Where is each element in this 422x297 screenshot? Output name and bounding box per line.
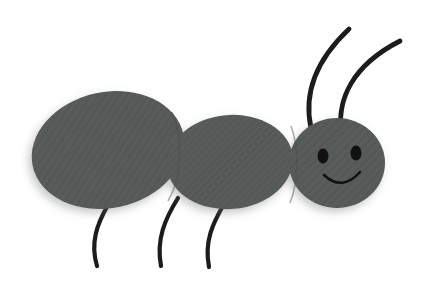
ant-illustration xyxy=(0,0,422,297)
left-eye xyxy=(318,149,329,164)
right-eye xyxy=(351,146,362,161)
head-segment xyxy=(289,118,385,208)
illustration-canvas xyxy=(0,0,422,297)
